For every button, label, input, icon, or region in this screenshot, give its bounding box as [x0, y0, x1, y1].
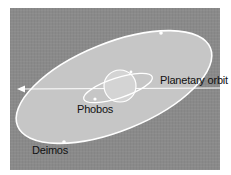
arrow-left-icon: [17, 86, 25, 93]
phobos-moon: [93, 97, 96, 100]
phobos-label: Phobos: [77, 103, 113, 115]
deimos-label: Deimos: [32, 144, 68, 156]
deimos-marker: [159, 31, 163, 35]
planetary-orbit-label: Planetary orbit: [160, 74, 228, 86]
phobos-marker: [130, 71, 133, 74]
